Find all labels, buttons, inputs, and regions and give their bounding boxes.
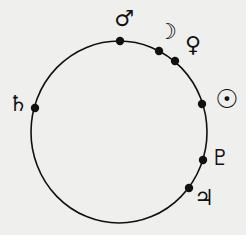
planet-dots: [31, 37, 207, 192]
saturn-position-dot: [31, 104, 39, 112]
venus-position-dot: [171, 57, 179, 65]
planet-orbit-diagram: ♂☽♀♄☉♇♃: [0, 0, 246, 235]
pluto-icon: ♇: [210, 147, 230, 169]
moon-icon: ☽: [157, 21, 177, 43]
pluto-position-dot: [199, 156, 207, 164]
venus-icon: ♀: [185, 34, 201, 56]
mars-position-dot: [116, 37, 124, 45]
jupiter-icon: ♃: [194, 187, 214, 209]
mars-icon: ♂: [114, 8, 134, 30]
saturn-icon: ♄: [8, 93, 28, 115]
orbit-circle: [31, 41, 207, 223]
moon-position-dot: [155, 47, 163, 55]
jupiter-position-dot: [185, 184, 193, 192]
sun-icon: ☉: [215, 86, 238, 112]
sun-position-dot: [198, 100, 206, 108]
